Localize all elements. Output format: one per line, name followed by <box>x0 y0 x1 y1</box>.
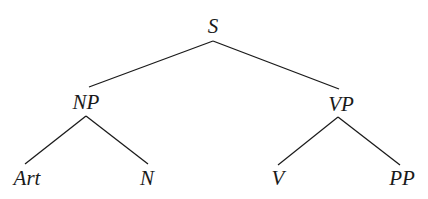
edge-vp-pp <box>338 117 400 165</box>
edge-np-n <box>86 116 148 164</box>
node-np: NP <box>73 92 100 113</box>
edge-s-np <box>89 41 213 87</box>
edge-s-vp <box>213 41 339 89</box>
node-pp: PP <box>389 168 415 189</box>
node-n: N <box>140 168 154 189</box>
node-s: S <box>208 16 219 37</box>
node-v: V <box>272 168 285 189</box>
edge-np-art <box>25 116 86 164</box>
node-vp: VP <box>328 94 354 115</box>
node-art: Art <box>14 168 41 189</box>
edge-vp-v <box>278 117 338 165</box>
